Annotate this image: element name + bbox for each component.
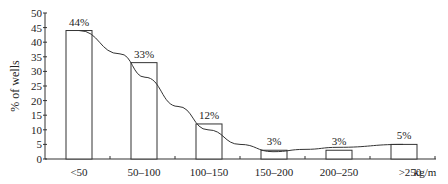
x-tick-label: 150–200 bbox=[255, 166, 294, 178]
y-tick-label: 50 bbox=[31, 7, 43, 19]
data-label: 5% bbox=[397, 129, 412, 141]
x-tick-label: <50 bbox=[70, 166, 88, 178]
data-label: 3% bbox=[267, 135, 282, 147]
x-tick-label: 200–250 bbox=[320, 166, 359, 178]
x-axis: <5050–100100–150150–200200–250>250kg/m bbox=[45, 156, 437, 178]
data-labels: 44%33%12%3%3%5% bbox=[69, 16, 411, 148]
y-tick-label: 35 bbox=[31, 51, 43, 63]
bar bbox=[66, 31, 92, 159]
y-tick-label: 25 bbox=[31, 80, 43, 92]
y-tick-label: 15 bbox=[31, 109, 43, 121]
x-tick-label: 100–150 bbox=[190, 166, 229, 178]
bar bbox=[196, 124, 222, 159]
y-tick-label: 30 bbox=[31, 65, 43, 77]
data-label: 12% bbox=[199, 109, 219, 121]
y-axis-label: % of wells bbox=[8, 60, 22, 112]
trend-curve bbox=[79, 31, 403, 152]
y-tick-label: 10 bbox=[31, 124, 43, 136]
data-label: 44% bbox=[69, 16, 89, 28]
y-axis: 05101520253035404550 bbox=[31, 7, 47, 165]
data-label: 33% bbox=[134, 48, 154, 60]
x-unit-label: kg/m bbox=[414, 166, 437, 178]
y-tick-label: 20 bbox=[31, 95, 43, 107]
x-tick-label: 50–100 bbox=[128, 166, 162, 178]
y-tick-label: 40 bbox=[31, 36, 43, 48]
y-tick-label: 45 bbox=[31, 22, 43, 34]
data-label: 3% bbox=[332, 135, 347, 147]
y-tick-label: 5 bbox=[37, 138, 43, 150]
bars bbox=[66, 31, 417, 159]
y-tick-label: 0 bbox=[37, 153, 43, 165]
bar bbox=[391, 144, 417, 159]
bar bbox=[326, 150, 352, 159]
chart: 05101520253035404550 <5050–100100–150150… bbox=[0, 0, 448, 184]
